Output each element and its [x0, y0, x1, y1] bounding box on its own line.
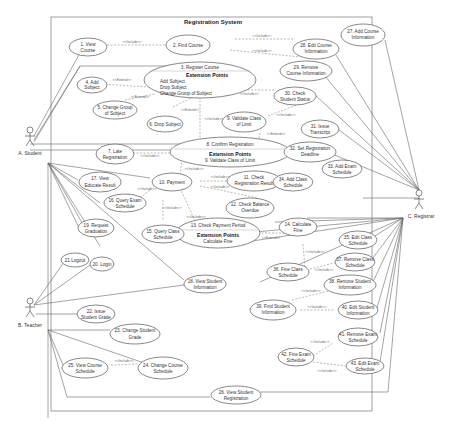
use-case-37[interactable]: 37. Remove Class Schedule — [335, 253, 375, 271]
svg-text:Information: Information — [194, 285, 217, 290]
svg-text:Add Subject: Add Subject — [160, 79, 185, 84]
svg-text:Transcript: Transcript — [310, 130, 331, 135]
use-case-12[interactable]: 12. Check Balance Overdue — [226, 198, 274, 218]
use-case-22[interactable]: 22. Issue Student Grade — [77, 305, 115, 323]
use-case-43[interactable]: 43. Edit Exam Schedule — [346, 358, 384, 374]
use-case-35[interactable]: 35. Edit Class Schedule — [339, 231, 377, 249]
use-case-20[interactable]: 20. Login — [90, 257, 114, 271]
svg-text:<<Include>>: <<Include>> — [163, 206, 182, 210]
use-case-41[interactable]: 41. Remove Exam Schedule — [338, 328, 378, 346]
svg-text:<<Include>>: <<Include>> — [185, 167, 204, 171]
use-case-21[interactable]: 21.Logout — [61, 253, 89, 267]
svg-text:Extension Points: Extension Points — [197, 232, 239, 238]
svg-text:Grade: Grade — [129, 335, 142, 340]
use-case-1[interactable]: 1. View Course — [69, 38, 107, 56]
svg-text:21.Logout: 21.Logout — [65, 258, 86, 263]
svg-text:Graduation: Graduation — [85, 229, 108, 234]
svg-text:<<Include>>: <<Include>> — [315, 268, 334, 272]
svg-text:32. Set Registration: 32. Set Registration — [290, 146, 331, 151]
use-case-24[interactable]: 24. Change Course Schedule — [138, 357, 188, 379]
svg-text:A. Student: A. Student — [18, 150, 42, 156]
svg-text:29. Remove: 29. Remove — [294, 65, 319, 70]
use-case-30[interactable]: 30. Check Student Status — [274, 87, 316, 105]
svg-text:26. View Student: 26. View Student — [219, 390, 254, 395]
svg-text:19. Request: 19. Request — [84, 223, 109, 228]
use-case-2[interactable]: 2. Find Course — [166, 35, 210, 55]
use-case-4[interactable]: 4. Add Subject — [77, 77, 107, 93]
svg-text:of Subject: of Subject — [105, 111, 126, 116]
use-case-25[interactable]: 25. View Course Schedule — [62, 358, 108, 378]
use-case-23[interactable]: 23. Change Student Grade — [110, 324, 160, 344]
svg-text:8. Confirm Registration: 8. Confirm Registration — [207, 142, 254, 147]
svg-text:Schedule: Schedule — [286, 358, 306, 363]
svg-text:Overdue: Overdue — [241, 208, 259, 213]
svg-text:22. Issue: 22. Issue — [87, 309, 106, 314]
use-case-10[interactable]: 10. Payment — [152, 173, 192, 191]
svg-text:Registration: Registration — [224, 396, 249, 401]
use-case-7[interactable]: 7. Late Registration — [96, 144, 134, 164]
svg-text:Extension Points: Extension Points — [209, 151, 251, 157]
svg-text:<<Include>>: <<Include>> — [318, 369, 337, 373]
svg-text:<<Include>>: <<Include>> — [306, 250, 325, 254]
svg-text:2. Find Course: 2. Find Course — [173, 43, 204, 48]
use-case-14[interactable]: 14. Calculate Fine — [279, 218, 317, 236]
svg-text:<<Include>>: <<Include>> — [311, 340, 330, 344]
svg-text:<<Extend>>: <<Extend>> — [113, 78, 131, 82]
use-case-31[interactable]: 31. Issue Transcript — [301, 120, 339, 138]
use-case-15[interactable]: 15. Query Class Schedule — [142, 225, 184, 243]
svg-text:14. Calculate: 14. Calculate — [285, 222, 312, 227]
use-case-13[interactable]: 13. Check Payment Period Extension Point… — [176, 218, 260, 248]
svg-text:<<Include>>: <<Include>> — [138, 187, 157, 191]
svg-text:C. Registrar: C. Registrar — [408, 213, 435, 219]
use-case-42[interactable]: 42. Fine Exam Schedule — [278, 348, 314, 366]
svg-text:Schedule: Schedule — [153, 235, 173, 240]
svg-text:Student Grade: Student Grade — [81, 315, 111, 320]
svg-text:Schedule: Schedule — [115, 204, 135, 209]
use-case-34[interactable]: 34. Add Class Schedule — [273, 173, 313, 191]
svg-text:13. Check Payment Period: 13. Check Payment Period — [191, 223, 246, 228]
use-case-17[interactable]: 17. View Educate Result — [79, 172, 121, 192]
svg-text:Course: Course — [81, 48, 96, 53]
use-case-32[interactable]: 32. Set Registration Deadline — [284, 142, 336, 162]
use-case-39[interactable]: 39. Find Student Information — [250, 300, 296, 320]
use-case-33[interactable]: 33. Add Exam Schedule — [322, 160, 362, 178]
svg-text:Schedule: Schedule — [332, 170, 352, 175]
svg-text:Information: Information — [262, 310, 285, 315]
actor-student[interactable]: A. Student — [18, 127, 42, 156]
svg-text:Information: Information — [339, 285, 362, 290]
use-case-6[interactable]: 6. Drop Subject — [147, 116, 183, 132]
use-case-18[interactable]: 18. View Student Information — [184, 275, 226, 293]
svg-text:11. Check: 11. Check — [244, 175, 265, 180]
use-case-40[interactable]: 40. Edit Student Information — [338, 301, 378, 319]
svg-text:9. Validate Class of Limit: 9. Validate Class of Limit — [205, 158, 256, 163]
svg-text:24. Change Course: 24. Change Course — [143, 363, 183, 368]
svg-text:43. Edit Exam: 43. Edit Exam — [351, 361, 380, 366]
svg-text:23. Change Student: 23. Change Student — [115, 328, 157, 333]
svg-text:27. Add Course: 27. Add Course — [347, 29, 379, 34]
use-case-16[interactable]: 16. Query Exam Schedule — [104, 194, 146, 212]
use-case-5[interactable]: 5. Change Group of Subject — [93, 101, 137, 119]
svg-text:Schedule: Schedule — [355, 367, 375, 372]
svg-text:<<Include>>: <<Include>> — [308, 305, 327, 309]
use-case-9[interactable]: 9. Validate Class of Limit — [222, 112, 266, 132]
svg-text:Fine: Fine — [294, 228, 303, 233]
use-case-diagram: Registration System — [0, 0, 451, 425]
use-case-28[interactable]: 28. Edit Course Information — [293, 39, 339, 59]
svg-text:6. Drop Subject: 6. Drop Subject — [149, 122, 181, 127]
actor-teacher[interactable]: B. Teacher — [18, 298, 42, 328]
use-case-27[interactable]: 27. Add Course Information — [341, 24, 385, 46]
svg-text:Information: Information — [352, 35, 375, 40]
use-case-19[interactable]: 19. Request Graduation — [78, 219, 114, 237]
svg-text:<<Extend>>: <<Extend>> — [181, 108, 199, 112]
use-case-29[interactable]: 29. Remove Course Information — [280, 61, 332, 81]
svg-text:<<Include>>: <<Include>> — [123, 40, 142, 44]
use-case-8[interactable]: 8. Confirm Registration Extension Points… — [170, 137, 290, 167]
use-case-36[interactable]: 36. Fine Class Schedule — [267, 263, 309, 281]
svg-text:Schedule: Schedule — [348, 241, 368, 246]
use-case-26[interactable]: 26. View Student Registration — [211, 386, 261, 404]
use-case-3[interactable]: 3. Register Course Extension Points Add … — [144, 62, 256, 98]
actor-registrar[interactable]: C. Registrar — [408, 190, 435, 219]
svg-text:30. Check: 30. Check — [285, 91, 306, 96]
svg-text:Student Status: Student Status — [280, 97, 311, 102]
use-case-38[interactable]: 38. Remove Student Information — [324, 275, 376, 295]
